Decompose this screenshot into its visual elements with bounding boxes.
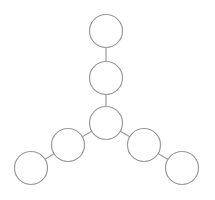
- node-left-2: [15, 152, 48, 185]
- node-up-1: [90, 62, 123, 95]
- node-center: [90, 107, 123, 140]
- tree-diagram: [0, 0, 215, 200]
- node-right-1: [128, 129, 161, 162]
- node-right-2: [166, 152, 199, 185]
- node-up-2: [90, 15, 123, 48]
- node-left-1: [52, 129, 85, 162]
